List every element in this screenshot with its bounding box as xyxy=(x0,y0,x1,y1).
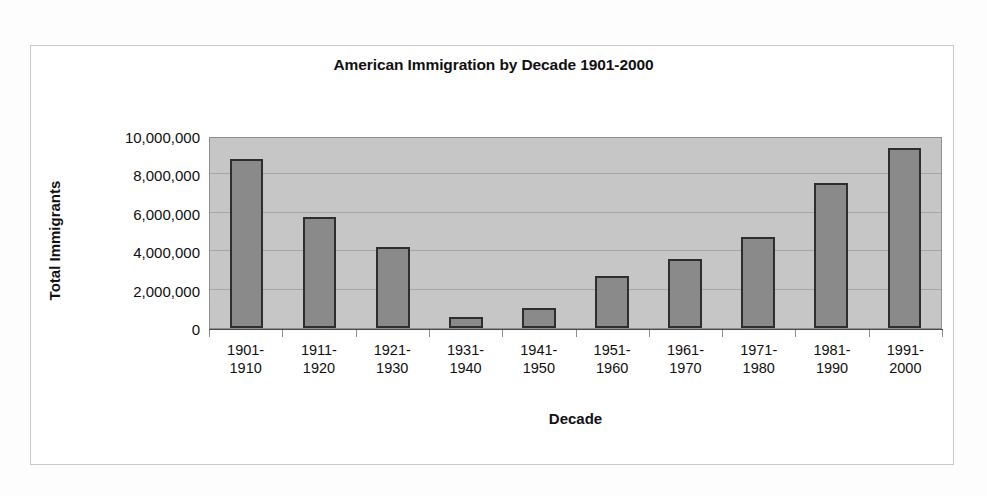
x-axis-tick-label: 1901- 1910 xyxy=(209,342,282,378)
bar-slot xyxy=(502,138,575,328)
x-axis-tick xyxy=(209,330,210,337)
x-axis-tick xyxy=(429,330,430,337)
x-axis-tick xyxy=(795,330,796,337)
bar xyxy=(449,317,483,328)
x-axis-tick-label: 1911- 1920 xyxy=(282,342,355,378)
x-axis-tick-label: 1961- 1970 xyxy=(649,342,722,378)
bar-slot xyxy=(356,138,429,328)
bar-slot xyxy=(649,138,722,328)
bar-slot xyxy=(722,138,795,328)
x-axis-tick-label: 1951- 1960 xyxy=(575,342,648,378)
bar-slot xyxy=(575,138,648,328)
y-axis-tick-label: 4,000,000 xyxy=(88,245,200,260)
y-axis-title: Total Immigrants xyxy=(46,151,63,331)
plot-area xyxy=(209,137,942,329)
bar-slot xyxy=(210,138,283,328)
bar xyxy=(668,259,702,328)
x-axis-tick-label: 1941- 1950 xyxy=(502,342,575,378)
x-axis-tick xyxy=(576,330,577,337)
bar xyxy=(303,217,337,328)
bar-slot xyxy=(795,138,868,328)
x-axis-tick xyxy=(722,330,723,337)
x-axis-tick xyxy=(649,330,650,337)
x-axis-tick-label: 1991- 2000 xyxy=(869,342,942,378)
x-axis-tick xyxy=(356,330,357,337)
x-axis-ticks xyxy=(209,330,942,338)
x-axis-tick xyxy=(869,330,870,337)
bar xyxy=(814,183,848,328)
y-axis-tick-label: 6,000,000 xyxy=(88,207,200,222)
bar-slot xyxy=(868,138,941,328)
x-axis-tick-label: 1921- 1930 xyxy=(356,342,429,378)
chart-title: American Immigration by Decade 1901-2000 xyxy=(0,56,987,74)
x-axis-tick-labels: 1901- 19101911- 19201921- 19301931- 1940… xyxy=(209,342,942,378)
x-axis-tick-label: 1981- 1990 xyxy=(795,342,868,378)
bar-slot xyxy=(429,138,502,328)
x-axis-tick xyxy=(282,330,283,337)
x-axis-tick-label: 1971- 1980 xyxy=(722,342,795,378)
bar-series xyxy=(210,138,941,328)
y-axis-tick-label: 0 xyxy=(88,322,200,337)
scanned-page: American Immigration by Decade 1901-2000… xyxy=(0,0,987,496)
bar xyxy=(741,237,775,328)
bar xyxy=(522,308,556,328)
y-axis-tick-label: 2,000,000 xyxy=(88,284,200,299)
y-axis-tick-label: 10,000,000 xyxy=(88,130,200,145)
bar xyxy=(230,159,264,328)
x-axis-tick xyxy=(502,330,503,337)
x-axis-title: Decade xyxy=(209,410,942,427)
y-axis-tick-label: 8,000,000 xyxy=(88,168,200,183)
x-axis-tick-label: 1931- 1940 xyxy=(429,342,502,378)
bar-slot xyxy=(283,138,356,328)
bar xyxy=(888,148,922,328)
y-axis-tick-labels: 02,000,0004,000,0006,000,0008,000,00010,… xyxy=(88,128,200,338)
bar xyxy=(376,247,410,328)
bar xyxy=(595,276,629,328)
x-axis-tick xyxy=(942,330,943,337)
